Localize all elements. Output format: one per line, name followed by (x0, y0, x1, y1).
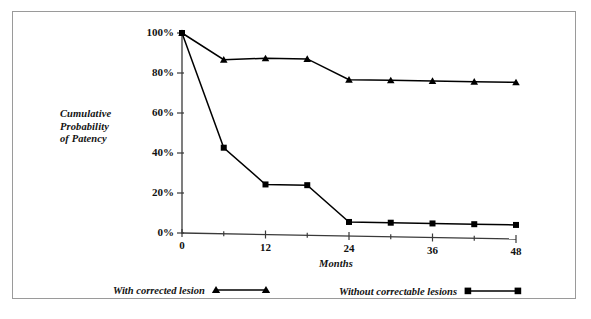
series-with-corrected-lesion (178, 29, 520, 85)
legend-marker-square (464, 282, 522, 300)
data-point-square (430, 220, 436, 226)
data-point-square (346, 219, 352, 225)
data-point-square (263, 181, 269, 187)
chart-canvas (0, 0, 591, 319)
legend-item-with-corrected-lesion[interactable]: With corrected lesion (113, 281, 270, 299)
y-axis-title: Cumulative Probability of Patency (60, 108, 136, 146)
y-tick-label: 80% (134, 66, 174, 78)
y-tick-label: 100% (134, 26, 174, 38)
data-point-square (471, 221, 477, 227)
x-tick-label: 36 (418, 244, 448, 256)
y-tick-label: 60% (134, 106, 174, 118)
x-tick-label: 0 (167, 239, 197, 251)
legend-label-with-corrected-lesion: With corrected lesion (113, 285, 205, 296)
data-point-square (179, 30, 185, 36)
series-line (182, 33, 516, 82)
chart-legend: With corrected lesion Without correctabl… (0, 278, 591, 304)
y-tick-label: 0% (134, 226, 174, 238)
x-axis-title: Months (296, 258, 376, 271)
x-tick-label: 48 (501, 245, 531, 257)
data-point-square (304, 182, 310, 188)
y-axis-ticks (177, 33, 184, 233)
x-tick-label: 12 (251, 241, 281, 253)
series-line (182, 33, 516, 225)
legend-label-without-correctable-lesions: Without correctable lesions (339, 286, 457, 297)
legend-item-without-correctable-lesions[interactable]: Without correctable lesions (339, 282, 522, 300)
data-point-square (388, 220, 394, 226)
axis-lines (182, 33, 516, 239)
x-tick-label: 24 (334, 242, 364, 254)
legend-marker-triangle (212, 281, 270, 299)
data-point-square (221, 145, 227, 151)
x-axis-ticks (182, 229, 516, 243)
y-tick-label: 40% (134, 146, 174, 158)
data-point-square (513, 222, 519, 228)
data-series-layer (178, 29, 520, 228)
y-tick-label: 20% (134, 186, 174, 198)
